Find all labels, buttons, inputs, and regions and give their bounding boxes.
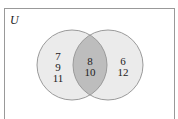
right-value: 12	[118, 66, 129, 78]
left-value: 11	[53, 72, 64, 84]
venn-diagram: U 7 9 11 8 10 6 12	[0, 0, 178, 119]
universe-label: U	[10, 13, 20, 27]
intersection-value: 10	[85, 66, 97, 78]
